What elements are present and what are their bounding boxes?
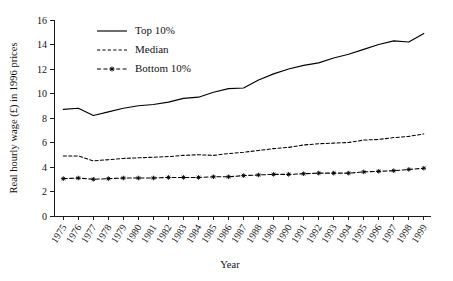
chart-figure: 0246810121416 Real hourly wage (£) in 19… [0, 0, 453, 281]
data-point-marker [91, 177, 96, 182]
x-tick-label: 1982 [154, 222, 174, 245]
series-bottom-10 [61, 166, 426, 182]
data-point-marker [76, 176, 81, 181]
data-point-marker [151, 176, 156, 181]
y-tick-label: 6 [42, 137, 47, 148]
y-axis-title: Real hourly wage (£) in 1996 prices [8, 42, 20, 193]
data-point-marker [256, 173, 261, 178]
data-point-marker [226, 175, 231, 180]
y-tick-label: 4 [42, 162, 47, 173]
y-tick-label: 12 [37, 64, 47, 75]
x-tick-label: 1998 [394, 222, 414, 245]
y-tick-label: 0 [42, 211, 47, 222]
y-tick-label: 14 [37, 39, 47, 50]
x-tick-label: 1988 [244, 222, 264, 245]
line-chart: 0246810121416 Real hourly wage (£) in 19… [0, 0, 453, 281]
legend-label: Bottom 10% [135, 62, 191, 74]
x-axis-tick-marks [63, 216, 423, 220]
x-tick-label: 1987 [229, 222, 249, 245]
y-axis-tick-marks [50, 20, 54, 216]
data-point-marker [181, 175, 186, 180]
x-tick-label: 1984 [184, 222, 204, 245]
data-point-marker [391, 168, 396, 173]
legend-label: Median [135, 43, 169, 55]
x-tick-label: 1994 [334, 222, 354, 245]
data-point-marker [136, 176, 141, 181]
x-tick-label: 1979 [109, 222, 129, 245]
series-line [63, 33, 423, 115]
x-tick-label: 1991 [289, 222, 309, 245]
y-tick-label: 10 [37, 88, 47, 99]
x-tick-label: 1976 [64, 222, 84, 245]
legend-item-top-10: Top 10% [97, 24, 175, 36]
data-point-marker [166, 175, 171, 180]
x-axis-title: Year [220, 259, 240, 270]
series-median [63, 134, 423, 161]
x-axis-group: 1975197619771978197919801981198219831984… [49, 216, 431, 270]
data-point-marker [316, 171, 321, 176]
x-tick-label: 1999 [409, 222, 429, 245]
x-tick-label: 1995 [349, 222, 369, 245]
data-point-marker [211, 175, 216, 180]
y-axis-group: 0246810121416 Real hourly wage (£) in 19… [8, 15, 54, 222]
series-top-10 [63, 33, 423, 115]
chart-legend: Top 10%MedianBottom 10% [97, 24, 191, 74]
data-series-layer [61, 33, 426, 181]
x-tick-label: 1996 [364, 222, 384, 245]
data-point-marker [376, 169, 381, 174]
data-point-marker [346, 171, 351, 176]
data-point-marker [286, 172, 291, 177]
data-point-marker [301, 171, 306, 176]
x-tick-label: 1981 [139, 222, 159, 245]
y-tick-label: 2 [42, 186, 47, 197]
data-point-marker [361, 170, 366, 175]
data-point-marker [271, 172, 276, 177]
data-point-marker [121, 176, 126, 181]
x-tick-label: 1992 [304, 222, 324, 245]
x-tick-label: 1980 [124, 222, 144, 245]
data-point-marker [331, 171, 336, 176]
x-tick-label: 1989 [259, 222, 279, 245]
data-point-marker [61, 176, 66, 181]
x-tick-label: 1975 [49, 222, 69, 245]
x-axis-tick-labels: 1975197619771978197919801981198219831984… [49, 222, 429, 245]
x-tick-label: 1990 [274, 222, 294, 245]
data-point-marker [421, 166, 426, 171]
legend-label: Top 10% [135, 24, 175, 36]
data-point-marker [241, 173, 246, 178]
y-tick-label: 16 [37, 15, 47, 26]
x-tick-label: 1993 [319, 222, 339, 245]
x-tick-label: 1985 [199, 222, 219, 245]
x-tick-label: 1997 [379, 222, 399, 245]
y-axis-tick-labels: 0246810121416 [37, 15, 47, 222]
x-tick-label: 1983 [169, 222, 189, 245]
x-tick-label: 1977 [79, 222, 99, 245]
y-tick-label: 8 [42, 113, 47, 124]
series-line [63, 134, 423, 161]
data-point-marker [106, 176, 111, 181]
data-point-marker [196, 175, 201, 180]
legend-item-median: Median [97, 43, 169, 55]
x-tick-label: 1986 [214, 222, 234, 245]
data-point-marker [406, 167, 411, 172]
legend-item-bottom-10: Bottom 10% [97, 62, 191, 74]
x-tick-label: 1978 [94, 222, 114, 245]
